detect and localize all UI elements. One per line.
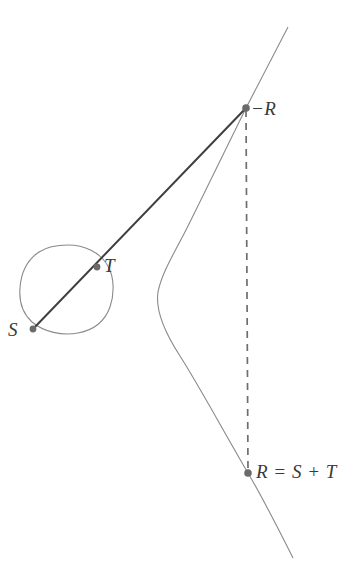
point-T [94, 264, 101, 271]
label-T: T [104, 256, 115, 275]
point-negR [242, 104, 250, 112]
label-S: S [8, 320, 18, 339]
label-R-equals-S-plus-T: R = S + T [256, 462, 337, 481]
secant-line-S-T-negR [33, 108, 246, 329]
elliptic-curve-figure: S T −R R = S + T [0, 0, 364, 576]
curve-oval-component [20, 245, 113, 334]
label-negative-R: −R [251, 99, 276, 118]
point-R [244, 469, 252, 477]
curve-canvas [0, 0, 364, 576]
reflection-dashed-line [246, 110, 248, 471]
point-S [30, 326, 37, 333]
